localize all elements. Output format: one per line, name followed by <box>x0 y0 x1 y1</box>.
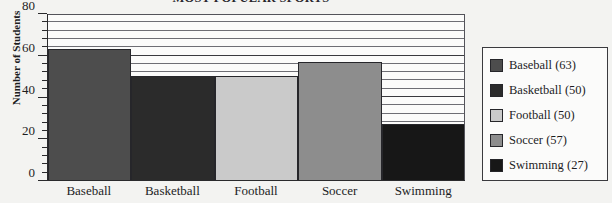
legend-swatch <box>490 134 503 147</box>
legend-label: Swimming (27) <box>509 158 588 173</box>
x-axis-labels: BaseballBasketballFootballSoccerSwimming <box>47 183 465 199</box>
bar-chart: MOST POPULAR SPORTS Number of Students 0… <box>0 0 612 203</box>
legend: Baseball (63)Basketball (50)Football (50… <box>482 47 608 181</box>
y-tick-label: 60 <box>22 40 35 56</box>
x-axis-label: Football <box>214 183 298 199</box>
legend-item-soccer: Soccer (57) <box>490 128 607 153</box>
legend-label: Baseball (63) <box>509 58 576 73</box>
legend-item-football: Football (50) <box>490 103 607 128</box>
y-tick-label: 0 <box>29 165 36 181</box>
x-axis-label: Soccer <box>298 183 382 199</box>
bar-series <box>48 14 465 180</box>
y-tick-major <box>38 138 47 139</box>
y-axis-ticks: 020406080 <box>0 14 47 181</box>
y-tick-label: 80 <box>22 0 35 14</box>
y-tick-major <box>38 97 47 98</box>
x-axis-label: Swimming <box>381 183 465 199</box>
chart-title: MOST POPULAR SPORTS <box>0 0 502 6</box>
y-tick-major <box>38 180 47 181</box>
legend-swatch <box>490 59 503 72</box>
bar-soccer <box>298 62 381 180</box>
legend-item-swimming: Swimming (27) <box>490 153 607 178</box>
bar-football <box>215 76 298 180</box>
x-axis-label: Basketball <box>131 183 215 199</box>
legend-label: Soccer (57) <box>509 133 567 148</box>
legend-swatch <box>490 84 503 97</box>
y-tick-major <box>38 55 47 56</box>
y-tick-major <box>38 13 47 14</box>
legend-swatch <box>490 159 503 172</box>
bar-swimming <box>382 124 465 180</box>
legend-swatch <box>490 109 503 122</box>
legend-label: Basketball (50) <box>509 83 586 98</box>
legend-label: Football (50) <box>509 108 575 123</box>
x-axis-label: Baseball <box>47 183 131 199</box>
y-tick-label: 20 <box>22 123 35 139</box>
y-tick-label: 40 <box>22 82 35 98</box>
legend-item-baseball: Baseball (63) <box>490 53 607 78</box>
legend-item-basketball: Basketball (50) <box>490 78 607 103</box>
bar-basketball <box>131 76 214 180</box>
plot-area <box>47 14 465 181</box>
bar-baseball <box>48 49 131 180</box>
